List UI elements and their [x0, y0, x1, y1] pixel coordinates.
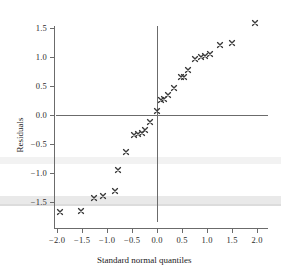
reference-line-horizontal — [56, 115, 268, 116]
data-point-marker — [207, 51, 214, 58]
data-point-marker — [78, 208, 85, 215]
data-point-marker — [178, 74, 185, 81]
y-tick-mark — [50, 115, 54, 116]
x-tick-label: 1.0 — [201, 235, 212, 245]
plot-area: −1.5−1.0−0.50.00.51.01.5−2.0−1.5−1.0−0.5… — [0, 0, 281, 270]
data-point-marker — [161, 95, 168, 102]
data-point-marker — [135, 131, 142, 138]
data-point-marker — [165, 92, 172, 99]
x-tick-mark — [232, 229, 233, 233]
y-tick-mark — [50, 86, 54, 87]
data-point-marker — [147, 118, 154, 125]
y-tick-label: 0.0 — [36, 110, 47, 120]
y-axis-spine — [54, 26, 55, 228]
x-tick-mark — [157, 229, 158, 233]
x-tick-label: −2.0 — [49, 235, 65, 245]
x-tick-mark — [82, 229, 83, 233]
data-point-marker — [123, 149, 130, 156]
y-tick-mark — [50, 202, 54, 203]
data-point-marker — [131, 131, 138, 138]
data-point-marker — [202, 52, 209, 59]
y-tick-label: −0.5 — [31, 139, 47, 149]
y-tick-label: 0.5 — [36, 81, 47, 91]
reference-line-vertical — [157, 26, 158, 222]
y-tick-label: 1.0 — [36, 52, 47, 62]
data-point-marker — [100, 193, 107, 200]
x-tick-mark — [132, 229, 133, 233]
data-point-marker — [91, 194, 98, 201]
data-point-marker — [252, 20, 259, 27]
data-point-marker — [57, 208, 64, 215]
data-point-marker — [139, 129, 146, 136]
x-tick-label: 0.5 — [176, 235, 187, 245]
x-axis-label: Standard normal quantiles — [97, 255, 191, 265]
y-tick-mark — [50, 144, 54, 145]
data-point-marker — [158, 96, 165, 103]
data-point-marker — [112, 187, 119, 194]
y-tick-mark — [50, 173, 54, 174]
data-point-marker — [185, 66, 192, 73]
data-point-marker — [229, 40, 236, 47]
data-point-marker — [171, 84, 178, 91]
x-tick-mark — [257, 229, 258, 233]
x-tick-mark — [57, 229, 58, 233]
y-tick-label: −1.5 — [31, 197, 47, 207]
y-axis-label: Residuals — [15, 118, 25, 153]
x-tick-label: −0.5 — [124, 235, 140, 245]
data-point-marker — [198, 54, 205, 61]
x-tick-label: 0.0 — [151, 235, 162, 245]
data-point-marker — [217, 42, 224, 49]
y-tick-label: −1.0 — [31, 168, 47, 178]
x-axis-spine — [54, 228, 268, 229]
x-tick-label: 2.0 — [251, 235, 262, 245]
data-point-marker — [115, 167, 122, 174]
y-tick-mark — [50, 28, 54, 29]
qq-plot-figure: −1.5−1.0−0.50.00.51.01.5−2.0−1.5−1.0−0.5… — [0, 0, 281, 270]
y-tick-mark — [50, 57, 54, 58]
data-point-marker — [142, 127, 149, 134]
x-tick-mark — [182, 229, 183, 233]
y-tick-label: 1.5 — [36, 23, 47, 33]
data-point-marker — [181, 74, 188, 81]
x-tick-label: 1.5 — [226, 235, 237, 245]
data-point-marker — [192, 55, 199, 62]
x-tick-label: −1.0 — [99, 235, 115, 245]
x-tick-label: −1.5 — [74, 235, 90, 245]
x-tick-mark — [107, 229, 108, 233]
x-tick-mark — [207, 229, 208, 233]
